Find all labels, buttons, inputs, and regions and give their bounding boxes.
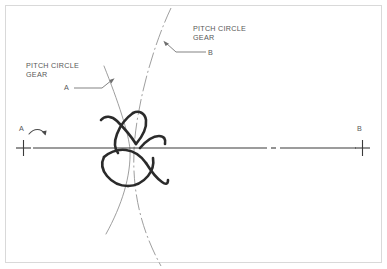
figure-frame (6, 6, 382, 263)
label-pitch-circle-gear-b: PITCH CIRCLE GEAR (193, 24, 246, 42)
center-mark-gear-b (355, 140, 370, 156)
label-gear-a-identifier: A (64, 84, 69, 92)
center-mark-gear-a (16, 140, 31, 156)
label-axis-center-a: A (19, 125, 24, 133)
label-pitch-circle-gear-a: PITCH CIRCLE GEAR (26, 61, 79, 79)
leader-gear-a (74, 78, 115, 88)
gear-a-tooth-lower (104, 150, 146, 163)
leader-gear-b (163, 41, 206, 52)
label-axis-center-b: B (357, 125, 362, 133)
gear-a-tooth-upper-flank (115, 113, 133, 153)
rotation-direction-arrow (29, 130, 47, 136)
gear-b-tooth-lower (128, 158, 153, 186)
gear-b-tooth-right-upper (140, 136, 165, 148)
gear-b-tooth-upper (133, 112, 146, 144)
gear-a-tooth-lower-crest (102, 157, 128, 186)
label-gear-b-identifier: B (208, 49, 213, 57)
gear-mesh-diagram: PITCH CIRCLE GEAR A PITCH CIRCLE GEAR B … (0, 0, 387, 269)
